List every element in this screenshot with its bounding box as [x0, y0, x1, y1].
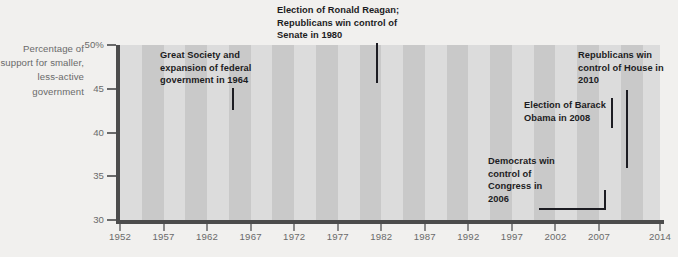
y-tick-label: 50%: [72, 39, 104, 50]
x-tick-mark: [598, 224, 600, 231]
background-stripe: [381, 45, 403, 220]
y-tick-mark: [107, 132, 116, 134]
y-tick-label: 45: [72, 83, 104, 94]
x-tick-mark: [467, 224, 469, 231]
x-tick-label: 1972: [283, 231, 305, 242]
x-tick-mark: [337, 224, 339, 231]
y-tick-mark: [107, 88, 116, 90]
leader-line-republicans-2010: [626, 90, 628, 168]
x-tick-label: 2002: [544, 231, 566, 242]
background-stripe: [360, 45, 382, 220]
x-tick-label: 1962: [196, 231, 218, 242]
background-stripe: [447, 45, 469, 220]
background-stripe: [403, 45, 425, 220]
x-tick-mark: [163, 224, 165, 231]
y-tick-mark: [107, 219, 116, 221]
leader-line-great-society: [232, 88, 234, 110]
x-tick-mark: [293, 224, 295, 231]
x-axis-line: [116, 220, 664, 224]
annotation-great-society: Great Society and expansion of federal g…: [160, 49, 280, 87]
annotation-obama-2008: Election of Barack Obama in 2008: [524, 99, 624, 124]
x-tick-label: 1977: [327, 231, 349, 242]
y-tick-mark: [107, 175, 116, 177]
x-tick-label: 1967: [240, 231, 262, 242]
background-stripe: [425, 45, 447, 220]
y-tick-mark: [107, 44, 116, 46]
x-tick-label: 1982: [370, 231, 392, 242]
x-tick-label: 1992: [457, 231, 479, 242]
x-tick-label: 2007: [588, 231, 610, 242]
x-tick-label: 1952: [109, 231, 131, 242]
x-tick-mark: [380, 224, 382, 231]
background-stripe: [120, 45, 142, 220]
x-tick-mark: [250, 224, 252, 231]
leader-line-reagan: [376, 43, 378, 83]
x-tick-mark: [554, 224, 556, 231]
x-tick-label: 1957: [152, 231, 174, 242]
y-axis-line: [116, 45, 120, 220]
leader-line-obama-2008: [611, 98, 613, 128]
annotation-democrats-2006: Democrats win control of Congress in 200…: [488, 155, 560, 205]
x-tick-mark: [659, 224, 661, 231]
chart-figure: Percentage of support for smaller, less-…: [0, 0, 678, 257]
x-tick-label: 2014: [649, 231, 671, 242]
y-tick-label: 40: [72, 127, 104, 138]
annotation-reagan: Election of Ronald Reagan; Republicans w…: [277, 4, 429, 42]
background-stripe: [468, 45, 490, 220]
background-stripe: [294, 45, 316, 220]
y-tick-label: 35: [72, 170, 104, 181]
annotation-republicans-2010: Republicans win control of House in 2010: [578, 49, 674, 87]
background-stripe: [316, 45, 338, 220]
background-stripe: [338, 45, 360, 220]
y-tick-label: 30: [72, 214, 104, 225]
x-tick-mark: [511, 224, 513, 231]
leader-line-democrats-2006-horizontal: [539, 208, 606, 210]
x-tick-mark: [424, 224, 426, 231]
x-tick-mark: [206, 224, 208, 231]
x-tick-mark: [119, 224, 121, 231]
x-tick-label: 1997: [501, 231, 523, 242]
x-tick-label: 1987: [414, 231, 436, 242]
leader-line-democrats-2006-vertical: [604, 190, 606, 210]
